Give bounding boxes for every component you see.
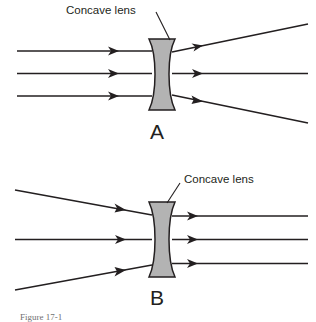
leader-line-b [167, 183, 180, 203]
lens-label-a: Concave lens [66, 4, 136, 16]
optics-figure: Concave lens A [0, 0, 316, 322]
panel-b-outgoing-rays [172, 212, 308, 269]
ray-outgoing-bottom [172, 95, 308, 123]
ray-diagram-canvas: Concave lens A [0, 0, 316, 322]
panel-a: Concave lens A [17, 4, 308, 143]
panel-b: Concave lens B [15, 173, 308, 309]
concave-lens-a [149, 39, 175, 110]
ray-incoming-top-b [15, 190, 152, 215]
concave-lens-b [149, 202, 175, 277]
panel-letter-a: A [150, 120, 164, 143]
panel-letter-b: B [150, 286, 164, 309]
leader-line-a [156, 12, 170, 40]
panel-a-outgoing-rays [172, 24, 308, 123]
panel-a-incoming-rays [17, 47, 152, 101]
panel-b-incoming-rays [15, 190, 152, 290]
ray-outgoing-top [172, 24, 308, 52]
lens-label-b: Concave lens [184, 173, 254, 185]
figure-caption: Figure 17-1 [20, 312, 62, 322]
ray-incoming-bottom-b [15, 265, 152, 290]
